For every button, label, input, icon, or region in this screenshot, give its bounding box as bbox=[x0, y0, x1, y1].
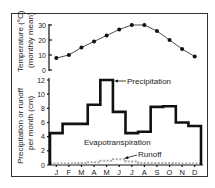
month-label: D bbox=[192, 168, 198, 177]
temp-tick-label: 0 bbox=[42, 67, 46, 74]
precip-ylabel-2: per month (cm) bbox=[26, 95, 35, 150]
month-label: O bbox=[167, 168, 173, 177]
precip-tick-label: 12 bbox=[37, 77, 45, 84]
precip-tick-label: 2 bbox=[41, 147, 45, 154]
precip-ylabel-1: Precipitation or runoff bbox=[16, 87, 25, 164]
precipitation-series bbox=[50, 80, 201, 165]
month-label: A bbox=[92, 168, 97, 177]
precip-tick-label: 8 bbox=[41, 105, 45, 112]
temperature-point bbox=[105, 34, 109, 38]
month-label: N bbox=[179, 168, 184, 177]
month-label: J bbox=[117, 168, 121, 177]
temperature-point bbox=[155, 29, 159, 33]
temperature-point bbox=[142, 23, 146, 27]
temp-ylabel-1: Temperature (°C) bbox=[16, 10, 25, 72]
precip-tick-label: 10 bbox=[37, 91, 45, 98]
temperature-point bbox=[92, 40, 96, 44]
runoff-arrowhead bbox=[124, 156, 129, 159]
month-label: M bbox=[104, 168, 110, 177]
temperature-point bbox=[117, 28, 121, 32]
precipitation-arrowhead bbox=[114, 80, 118, 83]
temperature-point bbox=[168, 38, 172, 42]
temperature-point bbox=[180, 47, 184, 51]
temp-tick-label: 10 bbox=[38, 52, 46, 59]
temperature-series bbox=[54, 23, 196, 60]
month-label: S bbox=[154, 168, 159, 177]
temperature-point bbox=[130, 23, 134, 27]
temperature-point bbox=[54, 56, 58, 60]
month-label: M bbox=[78, 168, 84, 177]
temperature-point bbox=[193, 55, 197, 59]
temp-tick-label: 20 bbox=[38, 37, 46, 44]
tick-labels: 0102030024681012JFMAMJJASOND bbox=[37, 22, 198, 178]
temp-tick-label: 30 bbox=[38, 22, 46, 29]
precip-tick-label: 6 bbox=[41, 119, 45, 126]
runoff-series bbox=[50, 159, 201, 163]
evapotranspiration-label: Evapotranspiration bbox=[84, 138, 151, 147]
precipitation-label: Precipitation bbox=[127, 77, 171, 86]
temperature-point bbox=[67, 53, 71, 57]
temperature-point bbox=[79, 46, 83, 50]
runoff-label: Runoff bbox=[138, 150, 162, 159]
month-label: A bbox=[142, 168, 147, 177]
month-label: J bbox=[130, 168, 134, 177]
climate-chart: Temperature (°C) (monthly mean) Precipit… bbox=[0, 0, 215, 188]
month-label: J bbox=[54, 168, 58, 177]
precip-tick-label: 4 bbox=[41, 133, 45, 140]
precip-tick-label: 0 bbox=[41, 162, 45, 169]
month-label: F bbox=[67, 168, 72, 177]
temp-ylabel-2: (monthly mean) bbox=[26, 12, 35, 68]
